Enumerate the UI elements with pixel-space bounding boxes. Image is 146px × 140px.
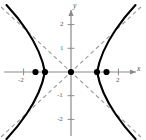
right-branch-upper: [97, 5, 135, 72]
left-branch-upper: [7, 5, 45, 72]
hyperbola-figure: -2 2 2 1 -1 -2 x y: [0, 0, 146, 140]
x-axis-arrow: [130, 69, 136, 74]
plot-area: [0, 0, 146, 140]
vertex-left-point: [42, 69, 48, 75]
y-tick-label--1: -1: [57, 92, 63, 99]
y-tick-label-2: 2: [60, 21, 64, 28]
y-axis-arrow: [68, 10, 73, 16]
y-axis-label: y: [73, 2, 76, 10]
y-tick-label--2: -2: [57, 116, 63, 123]
focus-left-point: [32, 69, 38, 75]
x-tick-label--2: -2: [18, 77, 24, 84]
vertex-right-point: [94, 69, 100, 75]
x-axis-label: x: [137, 65, 140, 73]
center-point: [68, 69, 74, 75]
x-tick-label-2: 2: [116, 77, 120, 84]
marked-points: [32, 69, 109, 75]
y-tick-label-1: 1: [60, 45, 64, 52]
left-branch-lower: [7, 72, 45, 139]
focus-right-point: [103, 69, 109, 75]
